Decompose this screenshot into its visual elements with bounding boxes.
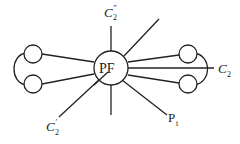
edge-left-bottom bbox=[42, 74, 94, 84]
svg-text:2: 2 bbox=[113, 13, 117, 22]
label-c2: C bbox=[218, 61, 227, 76]
edge-diagonal-upper-right bbox=[124, 19, 159, 56]
label-c2-prime: C bbox=[46, 119, 55, 134]
svg-text:2: 2 bbox=[55, 128, 59, 137]
label-c2-double-prime: C bbox=[104, 5, 113, 20]
svg-text:′: ′ bbox=[55, 118, 57, 127]
edge-left-top bbox=[42, 54, 94, 62]
right-top-node bbox=[179, 45, 197, 63]
diagram-canvas: PF C ″ 2 C 2 C ′ 2 P t bbox=[0, 0, 240, 144]
left-bottom-node bbox=[24, 75, 42, 93]
right-bottom-node bbox=[179, 75, 197, 93]
label-pt: P bbox=[168, 110, 175, 125]
edge-right-bottom bbox=[128, 75, 179, 83]
left-top-node bbox=[24, 45, 42, 63]
edge-pt bbox=[122, 80, 167, 115]
svg-text:″: ″ bbox=[113, 4, 117, 13]
center-node-label: PF bbox=[99, 61, 115, 76]
svg-text:2: 2 bbox=[227, 70, 231, 79]
svg-text:t: t bbox=[176, 119, 179, 128]
diagram: PF C ″ 2 C 2 C ′ 2 P t bbox=[0, 0, 240, 144]
edge-right-top bbox=[128, 55, 179, 62]
